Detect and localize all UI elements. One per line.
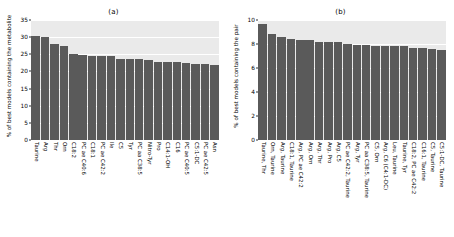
panel-b: (b) % of best models containing the pair… [227, 0, 454, 237]
x-axis-tick: Orn [59, 142, 68, 236]
panel-a-ylabel: % of best models containing the metaboli… [4, 12, 15, 140]
x-axis-tick: Nitro-Tyr [144, 142, 153, 236]
x-axis-tick-label: Thr [52, 142, 57, 151]
bar [50, 44, 59, 140]
x-axis-tick-label: Arg, C5 [335, 142, 340, 162]
x-axis-tick-label: PC aa C38:5 [136, 142, 141, 175]
x-axis-tick-label: Arg, Thr [316, 142, 321, 164]
bar [287, 39, 296, 140]
x-axis-tick: C5:1-DC, Taurine [437, 142, 446, 236]
x-axis-tick: C5 [116, 142, 125, 236]
x-axis-tick: PC ae C42:2, Taurine [343, 142, 352, 236]
x-axis-tick: Tyr [125, 142, 134, 236]
x-axis-tick-label: Taurine, Thr [260, 142, 265, 174]
bar [201, 64, 210, 140]
bar [400, 46, 409, 140]
x-axis-tick: C18:1, Taurine [286, 142, 295, 236]
bar [69, 54, 78, 140]
x-axis-tick-label: C18:2 [71, 142, 76, 158]
panel-b-bars [258, 20, 446, 140]
bar [258, 24, 267, 140]
bar [144, 60, 153, 140]
bar [116, 59, 125, 140]
bar [154, 62, 163, 141]
panel-b-xticklabels: Taurine, ThrOrn, TaurineArg, TaurineC18:… [258, 142, 446, 236]
bar [334, 42, 343, 140]
x-axis-tick: C18:2 [69, 142, 78, 236]
x-axis-tick: Arg, PC ae C42:2 [296, 142, 305, 236]
x-axis-tick: C5, Taurine [427, 142, 436, 236]
x-axis-tick-label: Arg, Orn [307, 142, 312, 164]
x-axis-tick: PC ae C40:6 [78, 142, 87, 236]
x-axis-tick-label: Ile [108, 142, 113, 148]
x-axis-tick-label: Arg, PC ae C42:2 [298, 142, 303, 188]
panel-a-title: (a) [0, 8, 227, 16]
bar [409, 48, 418, 140]
bar [107, 56, 116, 140]
x-axis-tick: Arg, Pro [324, 142, 333, 236]
x-axis-tick: Ile [106, 142, 115, 236]
bar [268, 34, 277, 140]
x-axis-tick: Arg [40, 142, 49, 236]
panel-b-plot-area: 0246810 [258, 20, 446, 140]
x-axis-tick: PC aa C38:5 [134, 142, 143, 236]
x-axis-tick-label: Orn, Taurine [269, 142, 274, 175]
x-axis-tick: PC ae C40:5 [182, 142, 191, 236]
x-axis-tick-label: PC ae C40:6 [80, 142, 85, 175]
x-axis-tick-label: Pro [155, 142, 160, 151]
panel-a: (a) % of best models containing the meta… [0, 0, 227, 237]
x-axis-tick-label: C5:1-DC [193, 142, 198, 164]
x-axis-tick-label: Arg [42, 142, 47, 151]
x-axis-tick: Taurine [31, 142, 40, 236]
x-axis-tick-label: Tyr [127, 142, 132, 150]
x-axis-tick: C5, Orn [371, 142, 380, 236]
bar [362, 45, 371, 140]
x-axis-tick: PC ae C42:5 [200, 142, 209, 236]
bar [173, 62, 182, 140]
bar [390, 46, 399, 140]
x-axis-tick: PC ae C42:2 [97, 142, 106, 236]
x-axis-tick: Leu, Taurine [390, 142, 399, 236]
x-axis-tick-label: Asn [212, 142, 217, 152]
x-axis-tick-label: C18:1, Taurine [288, 142, 293, 181]
x-axis-tick-label: C5 [118, 142, 123, 149]
bar [381, 46, 390, 140]
x-axis-tick: Taurine, Thr [258, 142, 267, 236]
panel-a-xticklabels: TaurineArgThrOrnC18:2PC ae C40:6C18:1PC … [31, 142, 219, 236]
bar [418, 48, 427, 140]
x-axis-tick: Arg, C5 [333, 142, 342, 236]
bar [210, 65, 219, 140]
bar [182, 63, 191, 140]
bar [31, 36, 40, 140]
x-axis-tick-label: Leu, Taurine [392, 142, 397, 175]
bar [78, 55, 87, 140]
x-axis-tick-label: PC ae C40:5 [184, 142, 189, 175]
x-axis-tick: Arg, Thr [314, 142, 323, 236]
x-axis-tick-label: C14:1-OH [165, 142, 170, 168]
x-axis-tick-label: PC ae C42:2 [99, 142, 104, 175]
panel-a-plot-area: 05101520253035 [31, 20, 219, 140]
panel-b-title: (b) [227, 8, 454, 16]
x-axis-tick-label: C5:1-DC, Taurine [439, 142, 444, 187]
x-axis-tick-label: C5, Taurine [429, 142, 434, 172]
bar [163, 62, 172, 140]
x-axis-tick: Orn, Taurine [267, 142, 276, 236]
bar [60, 46, 69, 140]
x-axis-tick-label: Arg, Taurine [279, 142, 284, 174]
bar [343, 44, 352, 140]
x-axis-tick: C18:2, PC ae C42:2 [409, 142, 418, 236]
panel-b-ylabel: % of best models containing the pair [231, 12, 242, 140]
x-axis-tick-label: PC ae C42:5 [202, 142, 207, 175]
x-axis-tick: Arg, Taurine [277, 142, 286, 236]
x-axis-tick-label: Taurine [33, 142, 38, 162]
bar [277, 37, 286, 140]
x-axis-tick: Arg, C6 (C4:1-DC) [380, 142, 389, 236]
bar [437, 50, 446, 140]
bar [353, 45, 362, 140]
x-axis-tick: Pro [153, 142, 162, 236]
x-axis-tick-label: Arg, Tyr [354, 142, 359, 163]
bar [428, 49, 437, 140]
x-axis-tick-label: C5, Orn [373, 142, 378, 162]
bar [97, 56, 106, 140]
x-axis-tick: Taurine, Tyr [399, 142, 408, 236]
